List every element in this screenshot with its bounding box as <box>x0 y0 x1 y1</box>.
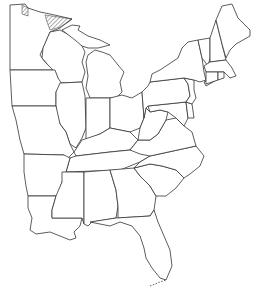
state-florida <box>90 210 172 280</box>
state-ohio <box>110 92 144 132</box>
state-michigan-lower <box>86 50 124 98</box>
state-connecticut <box>206 72 218 84</box>
state-new-york <box>150 40 206 82</box>
florida-keys <box>150 280 166 286</box>
eastern-us-map <box>0 0 256 291</box>
state-rhode-island <box>218 72 224 80</box>
state-iowa <box>10 70 62 106</box>
